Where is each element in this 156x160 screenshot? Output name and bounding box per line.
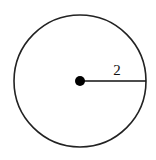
center-point [75,76,85,86]
circle-diagram: 2 [0,0,156,160]
radius-label: 2 [113,62,121,78]
